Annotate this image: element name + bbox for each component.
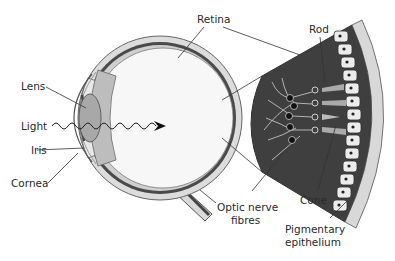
label-cone: Cone	[300, 194, 327, 206]
label-lens: Lens	[21, 80, 45, 92]
label-retina: Retina	[197, 13, 230, 25]
label-rod: Rod	[309, 23, 329, 35]
label-cornea: Cornea	[11, 177, 48, 189]
label-pigmentary-line2: epithelium	[285, 236, 341, 248]
label-pigmentary-line1: Pigmentary	[285, 223, 345, 235]
label-iris: Iris	[31, 144, 47, 156]
label-optic-nerve-line2: fibres	[231, 214, 260, 226]
label-optic-nerve-line1: Optic nerve	[217, 201, 278, 213]
eye-retina-diagram: Lens Light Iris Cornea Retina Rod Cone O…	[0, 0, 395, 261]
label-light: Light	[21, 120, 47, 132]
